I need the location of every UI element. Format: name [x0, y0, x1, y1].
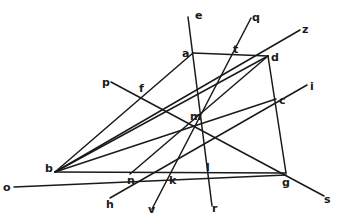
label-l: l: [206, 161, 210, 174]
label-e: e: [195, 9, 202, 22]
label-a: a: [182, 47, 189, 60]
label-r: r: [212, 202, 218, 215]
line-b-a: [55, 53, 193, 172]
label-i: i: [310, 80, 314, 93]
label-k: k: [169, 174, 177, 187]
label-v: v: [148, 203, 156, 216]
label-s: s: [324, 193, 331, 206]
label-m: m: [190, 110, 201, 123]
line-o-g: [14, 175, 286, 187]
label-t: t: [233, 43, 238, 56]
line-b-z: [55, 30, 300, 172]
label-f: f: [139, 82, 144, 95]
geometry-diagram: o b a t d z e q p f i c m n k l g s h v …: [0, 0, 338, 221]
label-c: c: [279, 94, 286, 107]
line-b-d: [55, 56, 268, 172]
label-g: g: [282, 176, 290, 189]
line-d-g: [268, 56, 286, 173]
line-b-c: [55, 99, 276, 172]
label-n: n: [127, 174, 135, 187]
label-z: z: [302, 23, 308, 36]
label-o: o: [3, 181, 11, 194]
label-p: p: [102, 76, 110, 89]
label-q: q: [252, 11, 260, 24]
label-b: b: [45, 162, 53, 175]
label-d: d: [271, 51, 279, 64]
label-h: h: [106, 198, 114, 211]
